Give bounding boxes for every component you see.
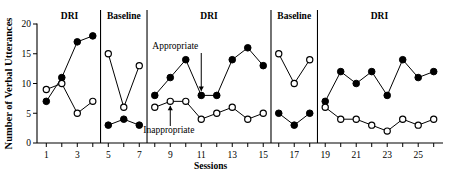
series-line-appropriate [155,48,263,96]
data-point-inappropriate [167,98,173,104]
x-tick-label: 1 [44,150,49,160]
data-point-inappropriate [322,104,328,110]
data-point-inappropriate [384,128,390,134]
series-line-inappropriate [279,54,310,84]
data-point-inappropriate [307,57,313,63]
data-point-appropriate [151,92,158,99]
series-line-inappropriate [108,54,139,108]
data-point-inappropriate [260,110,266,116]
x-axis-title: Sessions [194,161,228,171]
data-point-inappropriate [198,116,204,122]
data-point-appropriate [120,116,127,123]
data-point-appropriate [74,39,81,46]
y-tick-label: 15 [22,49,32,59]
data-point-appropriate [368,68,375,75]
data-point-inappropriate [59,80,65,86]
data-point-appropriate [244,45,251,52]
data-point-inappropriate [121,104,127,110]
data-point-appropriate [384,92,391,99]
data-point-appropriate [167,74,174,81]
data-point-appropriate [213,92,220,99]
annotation-appropriate-label: Appropriate [152,41,198,51]
data-point-inappropriate [245,116,251,122]
data-point-inappropriate [291,80,297,86]
annotation-inappropriate-label: Inappropriate [143,125,194,135]
data-point-appropriate [43,98,50,105]
data-point-inappropriate [369,122,375,128]
y-tick-label: 20 [22,19,32,29]
chart-canvas: Number of Verbal Utterances0510152013579… [0,0,450,175]
x-tick-label: 15 [258,150,268,160]
x-tick-label: 5 [106,150,111,160]
x-tick-label: 11 [197,150,206,160]
x-tick-label: 13 [228,150,238,160]
y-tick-label: 10 [22,79,32,89]
data-point-appropriate [229,56,236,63]
data-point-appropriate [260,62,267,69]
data-point-inappropriate [276,51,282,57]
data-point-inappropriate [74,110,80,116]
data-point-appropriate [182,56,189,63]
phase-label-dri: DRI [200,11,218,21]
data-point-inappropriate [338,116,344,122]
x-tick-label: 23 [382,150,392,160]
data-point-inappropriate [43,86,49,92]
data-point-appropriate [337,68,344,75]
data-point-inappropriate [152,104,158,110]
phase-label-dri: DRI [61,11,79,21]
data-point-inappropriate [90,98,96,104]
phase-label-baseline: Baseline [277,11,311,21]
data-point-appropriate [105,122,112,129]
series-line-appropriate [46,36,92,101]
x-tick-label: 25 [413,150,423,160]
data-point-appropriate [136,122,143,129]
data-point-appropriate [89,33,96,40]
data-point-inappropriate [214,110,220,116]
x-tick-label: 19 [320,150,330,160]
data-point-appropriate [198,92,205,99]
annotation-inappropriate-arrowhead [168,106,173,111]
data-point-inappropriate [136,63,142,69]
data-point-appropriate [275,110,282,117]
data-point-inappropriate [415,122,421,128]
series-line-inappropriate [46,84,92,114]
data-point-inappropriate [400,116,406,122]
y-tick-label: 5 [26,109,31,119]
x-tick-label: 7 [137,150,142,160]
y-tick-label: 0 [26,138,31,148]
phase-label-dri: DRI [371,11,389,21]
data-point-appropriate [415,74,422,81]
chart-figure: Number of Verbal Utterances0510152013579… [0,0,450,175]
data-point-inappropriate [183,98,189,104]
x-tick-label: 21 [351,150,361,160]
x-tick-label: 17 [289,150,299,160]
data-point-inappropriate [229,104,235,110]
x-tick-label: 9 [168,150,173,160]
data-point-appropriate [291,122,298,129]
data-point-appropriate [353,80,360,87]
x-tick-label: 3 [75,150,80,160]
data-point-inappropriate [353,116,359,122]
y-axis-title: Number of Verbal Utterances [3,18,14,150]
data-point-appropriate [430,68,437,75]
data-point-inappropriate [431,116,437,122]
data-point-appropriate [399,56,406,63]
data-point-inappropriate [105,51,111,57]
phase-label-baseline: Baseline [107,11,141,21]
data-point-appropriate [306,110,313,117]
